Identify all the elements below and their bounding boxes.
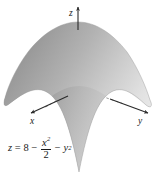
- equation-lhs: z: [8, 143, 12, 154]
- equation-equals: =: [15, 143, 21, 154]
- equation-fraction: x2 2: [41, 136, 51, 161]
- equation-fraction-numerator: x2: [41, 136, 51, 149]
- equation-minus-first: −: [31, 143, 37, 154]
- x-axis-label: x: [29, 116, 35, 126]
- equation-fraction-numerator-exponent: 2: [47, 135, 50, 142]
- equation-term-exponent: 2: [68, 145, 71, 152]
- equation-minus-second: −: [55, 143, 61, 154]
- y-axis-label: y: [137, 116, 143, 126]
- equation-constant: 8: [23, 143, 28, 154]
- z-axis-label: z: [68, 8, 73, 18]
- surface-equation-caption: z = 8 − x2 2 − y2: [8, 136, 72, 161]
- equation-fraction-denominator: 2: [42, 150, 49, 161]
- surface-plot-figure: z x y z = 8 − x2 2 − y2: [0, 0, 158, 176]
